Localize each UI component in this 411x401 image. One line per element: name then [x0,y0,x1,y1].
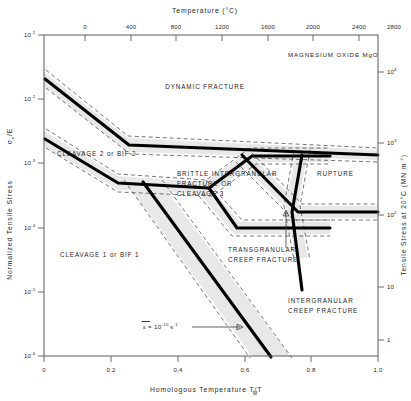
bif3-line-2: FRACTURE OR [177,180,232,187]
bottom-tick-04: 0,4 [174,367,183,373]
right-axis-title: Tensile Stress at 20°C (MN m-2) [399,154,408,276]
top-tick-400: 400 [126,24,137,30]
svg-text:Tensile Stress at 20°C (MN m-2: Tensile Stress at 20°C (MN m-2) [399,154,408,276]
top-tick-2800: 2800 [387,24,402,30]
left-tick-4: 10-4 [24,223,36,231]
bottom-tick-06: 0,6 [241,367,250,373]
left-axis-title: Normalized Tensile Stress [6,180,13,280]
intergranular-line-1: INTERGRANULAR [288,297,354,304]
intergranular-line-2: CREEP FRACTURE [288,307,358,314]
right-tick-1e3: 103 [387,138,397,146]
left-tick-6: 10-6 [24,351,36,359]
right-tick-1e4: 104 [387,67,397,75]
right-tick-10: 10 [387,284,395,290]
dash-creep-right [162,180,292,358]
bottom-axis-title-sub: M [253,390,258,396]
left-tick-1: 10-1 [24,30,36,38]
strain-rate-annotation: ε= 10-10s-1 [142,322,244,331]
fracture-mechanism-map: 0 400 800 1200 1600 2000 2400 2800 Tempe… [0,0,411,401]
strain-rate-symbol: ε [143,323,146,330]
chart-title: MAGNESIUM OXIDE MgO [288,51,378,58]
left-tick-3: 10-3 [24,158,36,166]
top-axis-ticks [85,35,359,41]
strain-rate-exp: -10 [161,322,168,327]
strain-rate-eq: = 10 [148,323,162,330]
region-label-cleavage-1: CLEAVAGE 1 or BIF 1 [60,251,140,258]
transgranular-line-2: CREEP FRACTURE [228,256,298,263]
left-axis-symbol: σn/E [6,128,15,144]
left-tick-2: 10-2 [24,94,36,102]
right-tick-1e2: 102 [387,210,397,218]
right-axis-tick-labels: 104 103 102 10 1 [387,67,397,343]
bottom-axis-title-main: Homologous Temperature T/T [150,386,262,394]
left-axis-title-text: Normalized Tensile Stress [6,180,13,280]
bottom-axis-ticks [44,356,378,362]
left-axis-ticks [38,35,44,356]
region-label-intergranular-creep: INTERGRANULAR CREEP FRACTURE [288,297,358,314]
strain-rate-unit-exp: -1 [174,322,179,327]
bottom-tick-0: 0 [42,367,46,373]
region-label-cleavage-2: CLEAVAGE 2 or BIF 2 [57,150,137,157]
bottom-axis-title: Homologous Temperature T/T M [150,386,262,396]
dash-dynamic-upper [46,70,378,148]
bottom-tick-10: 1,0 [374,367,383,373]
top-tick-2000: 2000 [306,24,321,30]
top-tick-2400: 2400 [352,24,367,30]
bif3-line-3: CLEAVAGE 3 [177,190,224,197]
svg-text:ε= 10-10s-1: ε= 10-10s-1 [143,322,178,330]
dash-creep-left [124,180,250,358]
left-axis-tick-labels: 10-1 10-2 10-3 10-4 10-5 10-6 [24,30,36,359]
top-axis-tick-labels: 0 400 800 1200 1600 2000 2400 2800 [83,24,401,30]
bottom-tick-02: 0,2 [107,367,116,373]
bottom-tick-08: 0,8 [307,367,316,373]
region-label-dynamic-fracture: DYNAMIC FRACTURE [165,83,244,90]
top-tick-800: 800 [171,24,182,30]
bottom-axis-tick-labels: 0 0,2 0,4 0,6 0,8 1,0 [42,367,383,373]
left-tick-5: 10-5 [24,287,36,295]
top-tick-1600: 1600 [261,24,276,30]
boundary-creep-diagonal [143,182,271,357]
right-tick-1: 1 [387,337,391,343]
region-label-transgranular-creep: TRANSGRANULAR CREEP FRACTURE [228,246,298,263]
top-axis-title: Temperature (°C) [172,7,238,15]
region-label-rupture: RUPTURE [317,170,354,177]
right-axis-ticks [378,72,384,340]
svg-text:σn/E: σn/E [6,128,15,144]
top-tick-1200: 1200 [215,24,230,30]
bif3-line-1: BRITTLE INTERGRANULAR [177,170,277,177]
top-tick-0: 0 [83,24,87,30]
